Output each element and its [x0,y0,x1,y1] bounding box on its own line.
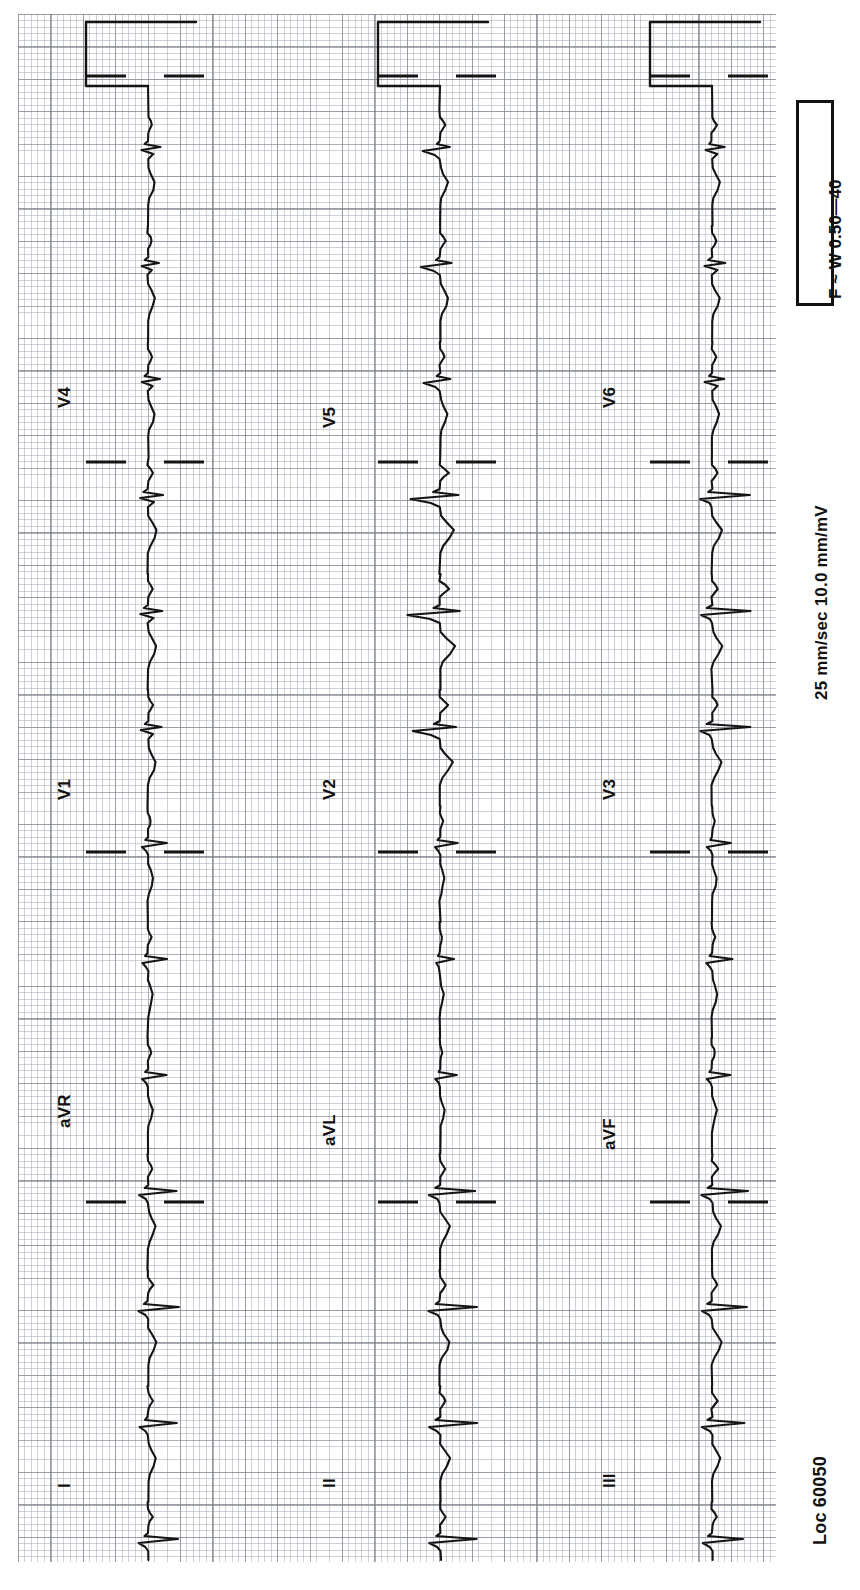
ecg-graph-paper [18,14,776,1562]
location-label: Loc 60050 [810,1456,831,1545]
lead-label-v5: V5 [320,407,340,428]
lead-label-avl: aVL [320,1114,340,1146]
speed-gain-label: 25 mm/sec 10.0 mm/mV [812,505,832,700]
lead-label-avr: aVR [55,1094,75,1128]
lead-label-ii: II [320,1478,340,1488]
lead-label-avf: aVF [600,1118,620,1150]
lead-label-v3: V3 [600,779,620,800]
filter-setting-box: F ~ W 0.50—40 [796,100,834,306]
lead-label-iii: III [600,1473,620,1488]
lead-label-i: I [55,1483,75,1488]
lead-label-v1: V1 [55,779,75,800]
lead-label-v4: V4 [55,387,75,408]
lead-label-v6: V6 [600,387,620,408]
filter-setting-label: F ~ W 0.50—40 [826,179,846,299]
lead-label-v2: V2 [320,779,340,800]
